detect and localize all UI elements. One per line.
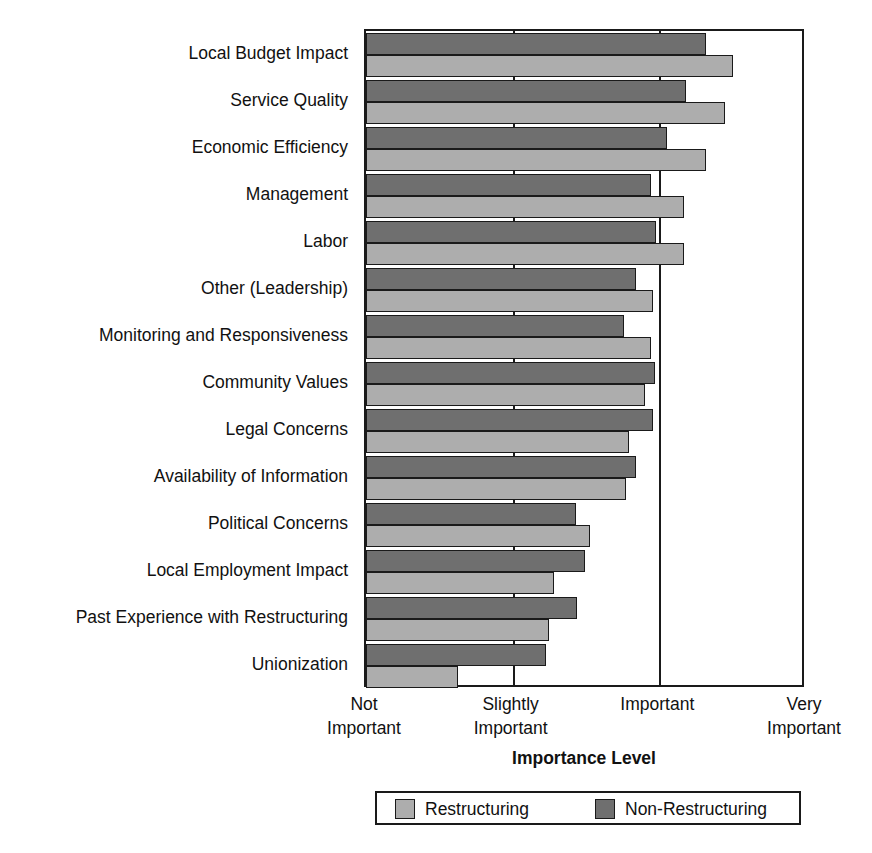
y-axis-label: Labor xyxy=(303,231,348,251)
bar-restructuring xyxy=(366,55,733,77)
x-axis-tick-label-line: Important xyxy=(436,716,586,740)
y-axis-label: Local Budget Impact xyxy=(188,43,348,63)
legend-item[interactable]: Non-Restructuring xyxy=(595,797,767,821)
plot-area xyxy=(364,29,804,687)
x-axis-tick-label-line: Slightly xyxy=(436,692,586,716)
y-axis-label: Monitoring and Responsiveness xyxy=(99,325,348,345)
bar-non-restructuring xyxy=(366,503,576,525)
bar-non-restructuring xyxy=(366,409,653,431)
bar-group xyxy=(366,503,802,547)
bar-group xyxy=(366,409,802,453)
bar-group xyxy=(366,456,802,500)
y-axis-label: Economic Efficiency xyxy=(192,137,348,157)
y-axis-label: Local Employment Impact xyxy=(147,560,348,580)
bar-restructuring xyxy=(366,196,684,218)
bar-group xyxy=(366,362,802,406)
bar-group xyxy=(366,268,802,312)
bar-non-restructuring xyxy=(366,362,655,384)
bar-restructuring xyxy=(366,666,458,688)
bar-non-restructuring xyxy=(366,268,636,290)
legend-item[interactable]: Restructuring xyxy=(395,797,529,821)
x-axis-tick-label: SlightlyImportant xyxy=(436,692,586,740)
y-axis-label: Past Experience with Restructuring xyxy=(76,607,348,627)
bar-restructuring xyxy=(366,478,626,500)
bar-non-restructuring xyxy=(366,127,667,149)
x-axis-title: Importance Level xyxy=(364,748,804,769)
bar-group xyxy=(366,315,802,359)
legend-swatch-light xyxy=(395,799,415,819)
legend: RestructuringNon-Restructuring xyxy=(375,791,801,825)
x-axis-tick-label-line: Very xyxy=(729,692,872,716)
bar-restructuring xyxy=(366,337,651,359)
bar-group xyxy=(366,597,802,641)
bar-restructuring xyxy=(366,431,629,453)
bar-non-restructuring xyxy=(366,456,636,478)
y-axis-label: Availability of Information xyxy=(154,466,348,486)
bar-non-restructuring xyxy=(366,221,656,243)
x-axis-tick-label-line: Important xyxy=(582,692,732,716)
importance-level-bar-chart: Local Budget ImpactService QualityEconom… xyxy=(0,0,872,853)
bar-restructuring xyxy=(366,290,653,312)
y-axis-label: Service Quality xyxy=(230,90,348,110)
bar-restructuring xyxy=(366,243,684,265)
x-axis-tick-label-line: Not xyxy=(289,692,439,716)
legend-swatch-dark xyxy=(595,799,615,819)
bar-group xyxy=(366,80,802,124)
bar-non-restructuring xyxy=(366,315,624,337)
bar-non-restructuring xyxy=(366,644,546,666)
y-axis-label: Legal Concerns xyxy=(225,419,348,439)
y-axis-label: Community Values xyxy=(202,372,348,392)
x-axis-tick-label: NotImportant xyxy=(289,692,439,740)
x-axis-tick-label: Important xyxy=(582,692,732,716)
x-axis-tick-label-line: Important xyxy=(729,716,872,740)
bar-group xyxy=(366,221,802,265)
y-axis-label: Management xyxy=(246,184,348,204)
y-axis-labels: Local Budget ImpactService QualityEconom… xyxy=(0,29,356,687)
bar-restructuring xyxy=(366,384,645,406)
y-axis-label: Political Concerns xyxy=(208,513,348,533)
bar-group xyxy=(366,127,802,171)
bar-non-restructuring xyxy=(366,174,651,196)
bar-restructuring xyxy=(366,525,590,547)
bar-non-restructuring xyxy=(366,33,706,55)
bar-restructuring xyxy=(366,149,706,171)
bar-non-restructuring xyxy=(366,550,585,572)
x-axis-tick-label-line: Important xyxy=(289,716,439,740)
x-axis-tick-labels: NotImportantSlightlyImportantImportantVe… xyxy=(0,692,872,752)
bar-non-restructuring xyxy=(366,80,686,102)
bar-group xyxy=(366,174,802,218)
y-axis-label: Other (Leadership) xyxy=(201,278,348,298)
bar-restructuring xyxy=(366,102,725,124)
legend-label: Restructuring xyxy=(425,799,529,819)
x-axis-tick-label: VeryImportant xyxy=(729,692,872,740)
bar-group xyxy=(366,644,802,688)
legend-label: Non-Restructuring xyxy=(625,799,767,819)
bar-non-restructuring xyxy=(366,597,577,619)
bar-group xyxy=(366,550,802,594)
bar-restructuring xyxy=(366,572,554,594)
y-axis-label: Unionization xyxy=(252,654,348,674)
bar-group xyxy=(366,33,802,77)
bar-restructuring xyxy=(366,619,549,641)
